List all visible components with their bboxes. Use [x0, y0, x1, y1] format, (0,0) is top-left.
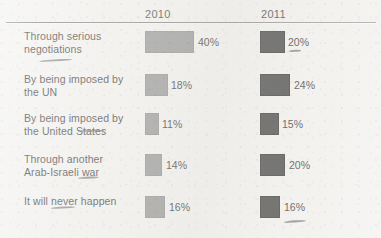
chart-row: By being imposed by the United States 11… — [0, 112, 381, 152]
survey-bar-chart: 2010 2011 Through serious negotiations 4… — [0, 0, 381, 238]
bar-value-2011: 16% — [284, 196, 305, 218]
bar-value-2010: 16% — [169, 196, 190, 218]
chart-row: Through serious negotiations 40% 20% — [0, 30, 381, 70]
chart-row: By being imposed by the UN 18% 24% — [0, 73, 381, 113]
column-header-2011: 2011 — [261, 8, 286, 20]
bar-value-2011: 15% — [282, 113, 303, 135]
row-label: Through serious negotiations — [24, 30, 144, 56]
bar-2011 — [260, 31, 285, 53]
row-label-line1: Through serious — [24, 30, 101, 42]
bar-2011 — [260, 74, 290, 96]
bar-2011 — [260, 113, 279, 135]
row-label-line2: the UN — [24, 86, 57, 98]
column-header-2010: 2010 — [145, 8, 171, 20]
bar-2010 — [145, 196, 165, 218]
row-label-line1: By being imposed by — [24, 112, 123, 124]
bar-value-2010: 40% — [198, 31, 219, 53]
bar-2011 — [260, 196, 280, 218]
bar-value-2010: 14% — [166, 154, 187, 176]
bar-value-2010: 11% — [162, 113, 182, 135]
row-label: By being imposed by the UN — [24, 73, 144, 99]
bar-2010 — [145, 113, 159, 135]
row-label-line1: Through another — [24, 153, 103, 165]
bar-value-2011: 20% — [289, 154, 310, 176]
chart-row: Through another Arab-Israeli war 14% 20% — [0, 153, 381, 193]
chart-row: It will never happen 16% 16% — [0, 195, 381, 235]
pen-mark-value-20-percent — [289, 50, 301, 52]
row-label-line1: It will never happen — [24, 195, 116, 207]
bar-2010 — [145, 31, 194, 53]
bar-2010 — [145, 154, 162, 176]
row-label-line1: By being imposed by — [24, 73, 123, 85]
bar-value-2010: 18% — [171, 74, 192, 96]
row-label: Through another Arab-Israeli war — [24, 153, 144, 179]
bar-value-2011: 24% — [294, 74, 315, 96]
row-label: It will never happen — [24, 195, 144, 208]
header-divider-rule — [6, 22, 376, 23]
bar-2010 — [145, 74, 168, 96]
row-label: By being imposed by the United States — [24, 112, 144, 138]
row-label-line2: negotiations — [24, 43, 82, 55]
bar-2011 — [260, 154, 285, 176]
